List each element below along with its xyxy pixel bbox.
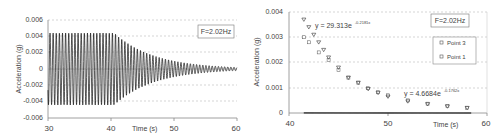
x-tick-label: 60 [482,119,491,128]
x-tick-label: 40 [286,119,295,128]
x-axis-label: Time (s) [433,121,458,129]
triangle-marker-icon [317,41,321,44]
y-axis-label: Acceleration (g) [253,37,261,86]
triangle-marker-icon [302,18,306,21]
y-tick-label: 0.003 [265,33,283,40]
y-tick-label: -0.006 [23,114,43,121]
frequency-annotation: F=2.02Hz [435,17,466,24]
triangle-marker-icon [307,26,311,29]
y-tick-label: 0.002 [265,58,283,65]
x-tick-label: 50 [170,124,179,133]
square-marker-icon [317,51,320,54]
x-tick-label: 40 [107,124,116,133]
frequency-annotation: F=2.02Hz [201,28,232,35]
legend-label: Point 3 [447,40,466,46]
y-tick-label: 0.004 [265,8,283,15]
x-axis-label: Time (s) [132,125,157,133]
y-tick-label: 0.006 [25,16,43,23]
y-axis-label: Acceleration (g) [15,44,23,93]
square-marker-icon [440,55,443,58]
y-tick-label: -0.004 [23,97,43,104]
trendline-equation-2: y = 4.6684e-0.1762x [404,88,459,98]
y-tick-label: 0.004 [25,32,43,39]
legend: Point 3 Point 1 [433,37,476,64]
y-tick-label: 0.001 [265,84,283,91]
square-marker-icon [440,41,443,44]
trendline-equation-1: y = 29.313e-0.2181x [315,20,370,30]
triangle-marker-icon [312,33,316,36]
x-tick-label: 30 [45,124,54,133]
square-marker-icon [307,41,310,44]
y-tick-label: 0 [39,65,43,72]
x-tick-label: 60 [232,124,241,133]
legend-label: Point 1 [447,54,466,60]
decay-fit-chart: 0.004 0.003 0.002 0.001 0 40 50 60 Time … [250,0,504,139]
y-tick-label: 0 [279,109,283,116]
y-tick-label: 0.002 [25,48,43,55]
time-history-chart: 0.006 0.004 0.002 0 -0.002 -0.004 -0.006… [0,0,250,139]
triangle-marker-icon [322,48,326,51]
x-tick-label: 50 [384,119,393,128]
y-tick-label: -0.002 [23,81,43,88]
